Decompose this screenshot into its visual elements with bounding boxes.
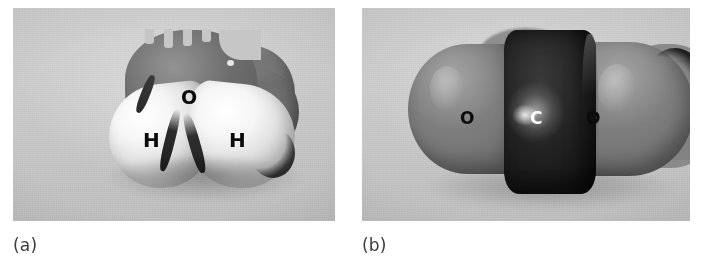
panel-caption-a: (a) [13,235,37,255]
panel-caption-b: (b) [362,235,387,255]
atom-label-hydrogen-left: H [143,130,160,150]
atom-label-oxygen: O [181,88,197,107]
oxygen-highlight [430,66,464,112]
model-notch [202,29,211,42]
model-stage-carbon-dioxide: O C O [362,8,690,221]
model-notch [145,29,154,44]
oxygen-specular-dot [227,60,234,66]
drop-shadow [105,158,305,202]
photo-panel-carbon-dioxide: O C O [362,8,690,221]
photo-panel-water: O H H [13,8,335,221]
model-notch [164,29,173,48]
drop-shadow [422,170,682,210]
model-stage-water: O H H [13,8,335,221]
atom-label-oxygen-right: O [586,110,600,127]
atom-label-oxygen-left: O [460,110,474,127]
model-notch [183,29,192,46]
oxygen-highlight [598,64,636,114]
atom-label-hydrogen-right: H [229,130,246,150]
figure-molecular-models: O H H O C O (a) (b) [0,0,702,273]
atom-label-carbon: C [530,110,542,127]
